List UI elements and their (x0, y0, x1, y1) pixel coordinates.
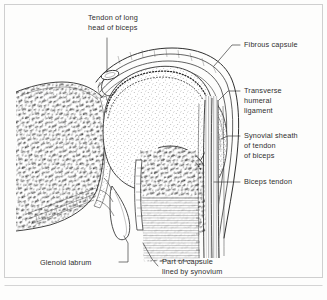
label-synovial-sheath-line2: of tendon (244, 141, 276, 150)
humeral-shaft-bone (138, 148, 202, 266)
label-part-of-capsule-line2: lined by synovium (162, 267, 223, 276)
label-transverse-humeral-ligament-line1: Transverse (244, 86, 282, 95)
label-synovial-sheath-line3: of biceps (244, 151, 275, 160)
label-glenoid-labrum-line1: Glenoid labrum (40, 258, 92, 267)
label-glenoid-labrum: Glenoid labrum (40, 258, 92, 267)
label-transverse-humeral-ligament-line2: humeral (244, 96, 272, 105)
label-biceps-tendon-line1: Biceps tendon (244, 177, 292, 186)
label-part-of-capsule-line1: Part of capsule (162, 257, 213, 266)
label-tendon-long-head-line2: head of biceps (88, 23, 138, 32)
figure-root: Tendon of long head of biceps Fibrous ca… (0, 0, 327, 300)
label-fibrous-capsule: Fibrous capsule (244, 40, 298, 49)
label-tendon-long-head: Tendon of long head of biceps (88, 13, 138, 32)
label-biceps-tendon: Biceps tendon (244, 177, 292, 186)
shoulder-joint-diagram: Tendon of long head of biceps Fibrous ca… (0, 0, 327, 300)
label-synovial-sheath-line1: Synovial sheath (244, 131, 298, 140)
label-transverse-humeral-ligament-line3: ligament (244, 106, 273, 115)
label-tendon-long-head-line1: Tendon of long (88, 13, 138, 22)
label-fibrous-capsule-line1: Fibrous capsule (244, 40, 298, 49)
